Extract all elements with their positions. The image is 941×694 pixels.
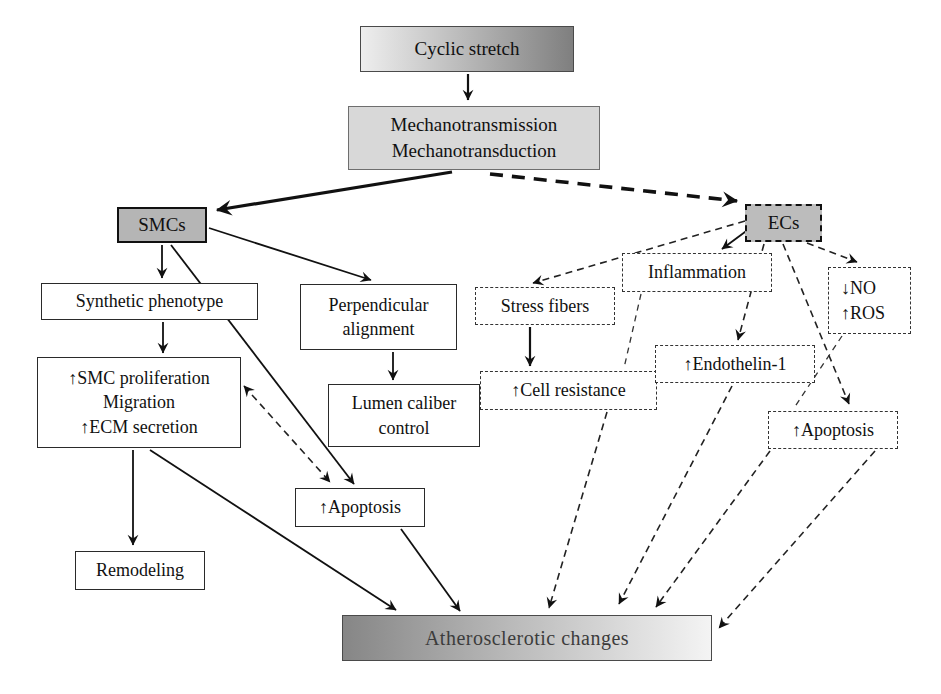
node-cell-resistance: ↑Cell resistance	[480, 371, 657, 410]
node-smcs: SMCs	[117, 207, 207, 243]
node-apoptosis-ec: ↑Apoptosis	[768, 411, 898, 449]
diagram-canvas: Cyclic stretch Mechanotransmission Mecha…	[0, 0, 941, 694]
node-ecs: ECs	[745, 204, 822, 242]
node-atherosclerotic-changes: Atherosclerotic changes	[342, 615, 712, 661]
node-perpendicular-alignment: Perpendicular alignment	[300, 284, 457, 350]
node-mechanotransduction: Mechanotransmission Mechanotransduction	[348, 106, 600, 170]
edge-mechanotransduction-to-ecs	[490, 174, 737, 201]
edge-smc-proliferation-apoptosis-smc-bidirectional	[244, 386, 330, 482]
node-endothelin-1: ↑Endothelin-1	[655, 345, 815, 383]
edge-smcs-to-perpendicular-alignment	[209, 228, 371, 280]
edge-ecs-to-no-ros	[807, 243, 857, 262]
node-cyclic-stretch: Cyclic stretch	[360, 26, 574, 72]
node-no-ros: ↓NO ↑ROS	[828, 267, 911, 334]
edge-apoptosis-ec-to-atherosclerotic-changes	[656, 451, 770, 607]
node-inflammation: Inflammation	[622, 253, 772, 292]
edge-endothelin-1-to-atherosclerotic-changes	[619, 386, 732, 604]
node-synthetic-phenotype: Synthetic phenotype	[41, 283, 258, 320]
node-lumen-caliber-control: Lumen caliber control	[328, 384, 480, 447]
edge-apoptosis-ec-to-atherosclerotic-changes-right	[719, 451, 875, 628]
edge-cell-resistance-to-atherosclerotic-changes	[549, 412, 607, 608]
node-apoptosis-smc: ↑Apoptosis	[295, 488, 425, 527]
edge-apoptosis-smc-to-atherosclerotic-changes	[401, 529, 460, 611]
node-remodeling: Remodeling	[75, 551, 205, 590]
node-smc-proliferation: ↑SMC proliferation Migration ↑ECM secret…	[37, 357, 241, 448]
node-stress-fibers: Stress fibers	[475, 287, 615, 325]
edge-mechanotransduction-to-smcs	[217, 172, 452, 210]
edge-inflammation-to-cell-resistance	[624, 294, 641, 368]
